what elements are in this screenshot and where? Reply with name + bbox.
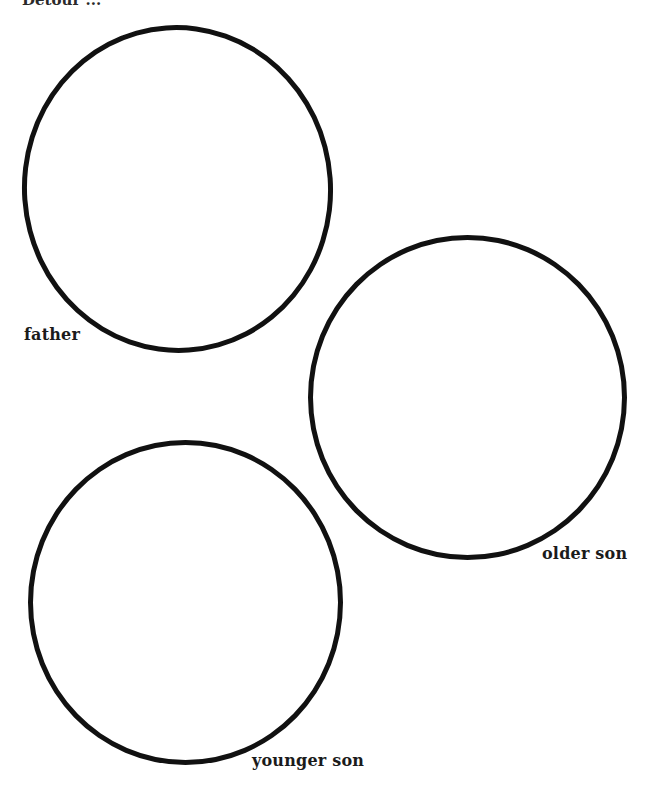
father-circle <box>11 15 344 364</box>
younger-son-circle <box>28 440 343 765</box>
younger-son-label: younger son <box>252 751 364 770</box>
older-son-label: older son <box>542 544 627 563</box>
clipped-page-heading: Detour ... <box>22 0 101 9</box>
older-son-circle <box>308 235 627 560</box>
father-label: father <box>24 325 80 344</box>
